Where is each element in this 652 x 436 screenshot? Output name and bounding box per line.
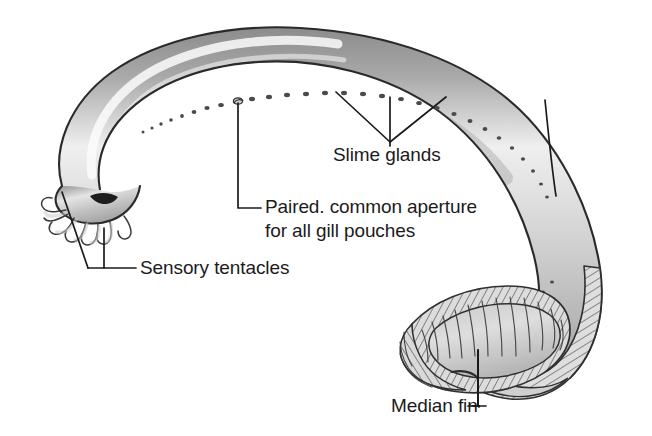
label-slime-glands: Slime glands — [333, 144, 441, 165]
label-paired-aperture-line1: Paired. common aperture — [265, 196, 477, 217]
hagfish-diagram: Slime glands Paired. common aperture for… — [0, 0, 652, 436]
leader-slime-glands-left — [336, 92, 390, 142]
label-paired-aperture-line2: for all gill pouches — [265, 220, 415, 241]
leader-gill-aperture — [238, 103, 261, 208]
figure-root: Slime glands Paired. common aperture for… — [0, 0, 652, 436]
label-sensory-tentacles: Sensory tentacles — [140, 257, 289, 278]
head — [56, 186, 140, 223]
label-median-fin: Median fin — [391, 395, 478, 416]
